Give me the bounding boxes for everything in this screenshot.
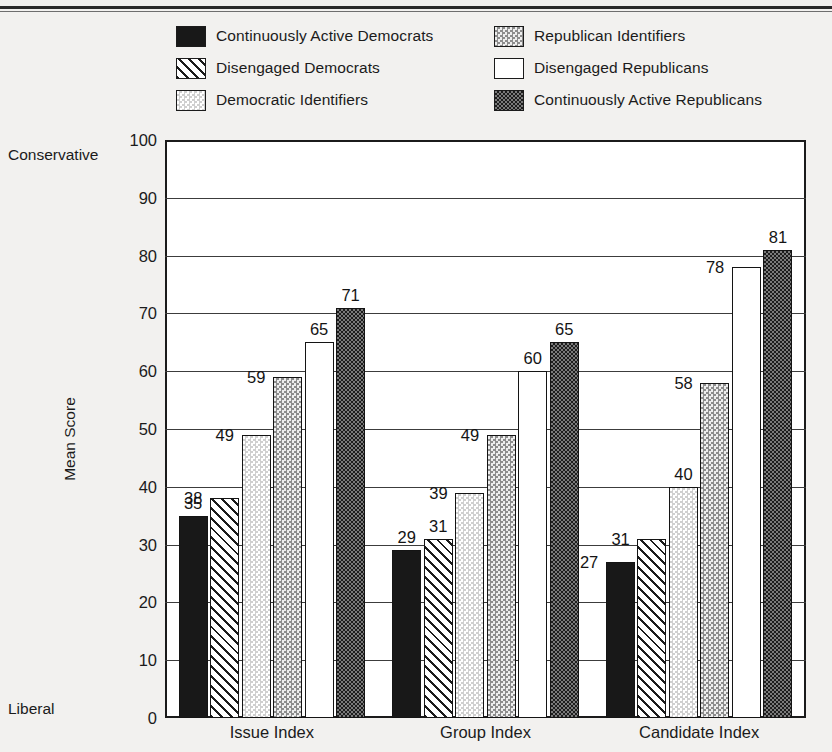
bar-value-label: 59 [247,369,265,386]
legend-item: Republican Identifiers [494,20,812,52]
legend-swatch-solid-black-icon [176,26,206,47]
bar [336,308,365,718]
legend-item: Democratic Identifiers [176,84,494,116]
bar [242,435,271,718]
bar-value-label: 58 [674,375,692,392]
header-rule [0,6,832,9]
bar [424,539,453,718]
y-tick-label: 10 [139,652,157,669]
y-tick-label: 60 [139,363,157,380]
axis-endpoint-label-conservative: Conservative [8,146,98,164]
legend-item: Disengaged Republicans [494,52,812,84]
y-tick-label: 100 [129,132,157,149]
bar [518,371,547,718]
gridline [165,256,806,257]
legend-item: Disengaged Democrats [176,52,494,84]
bar-value-label: 40 [674,466,692,483]
bar [210,498,239,718]
y-tick-label: 70 [139,305,157,322]
bar [487,435,516,718]
bar-value-label: 29 [398,529,416,546]
x-category-label: Issue Index [230,723,314,742]
bar [637,539,666,718]
bar-value-label: 78 [706,259,724,276]
y-tick-label: 30 [139,536,157,553]
bar-value-label: 71 [341,287,359,304]
bar-value-label: 60 [524,350,542,367]
x-category-label: Candidate Index [639,723,759,742]
y-tick-label: 90 [139,190,157,207]
legend-swatch-dark-dots-icon [494,90,524,111]
legend-item: Continuously Active Democrats [176,20,494,52]
legend-swatch-light-dots-icon [176,90,206,111]
bar-value-label: 38 [184,490,202,507]
y-tick-label: 50 [139,421,157,438]
legend-swatch-diagonal-hatch-icon [176,58,206,79]
x-category-label: Group Index [440,723,531,742]
bar-value-label: 81 [769,229,787,246]
bar [455,493,484,718]
y-tick-label: 80 [139,247,157,264]
legend-item-label: Democratic Identifiers [216,91,368,109]
bar-value-label: 39 [429,485,447,502]
y-axis-title: Mean Score [61,359,79,519]
legend-item: Continuously Active Republicans [494,84,812,116]
bar [606,562,635,718]
gridline [165,313,806,314]
bar-value-label: 49 [216,427,234,444]
legend-item-label: Disengaged Democrats [216,59,380,77]
bar-value-label: 31 [429,518,447,535]
legend-item-label: Continuously Active Democrats [216,27,433,45]
bar-value-label: 49 [461,427,479,444]
chart-legend: Continuously Active DemocratsDisengaged … [176,20,816,116]
legend-swatch-medium-dots-icon [494,26,524,47]
bar [732,267,761,718]
bar-value-label: 65 [555,321,573,338]
bar [669,487,698,718]
legend-swatch-white-icon [494,58,524,79]
x-axis-category-labels: Issue IndexGroup IndexCandidate Index [165,723,806,749]
bar [550,342,579,718]
bar [305,342,334,718]
plot-area: 353849596571293139496065273140587881 [165,140,806,718]
bar-value-label: 65 [310,321,328,338]
bar [700,383,729,718]
legend-item-label: Continuously Active Republicans [534,91,762,109]
y-tick-label: 0 [148,710,157,727]
legend-item-label: Republican Identifiers [534,27,685,45]
y-axis-tick-labels: 0102030405060708090100 [113,140,157,718]
y-tick-label: 20 [139,594,157,611]
bar-value-label: 27 [580,554,598,571]
legend-item-label: Disengaged Republicans [534,59,709,77]
gridline [165,198,806,199]
bar [392,550,421,718]
bar [179,516,208,718]
axis-endpoint-label-liberal: Liberal [8,700,55,718]
bar-value-label: 31 [611,531,629,548]
bar [763,250,792,718]
y-tick-label: 40 [139,479,157,496]
bar [273,377,302,718]
